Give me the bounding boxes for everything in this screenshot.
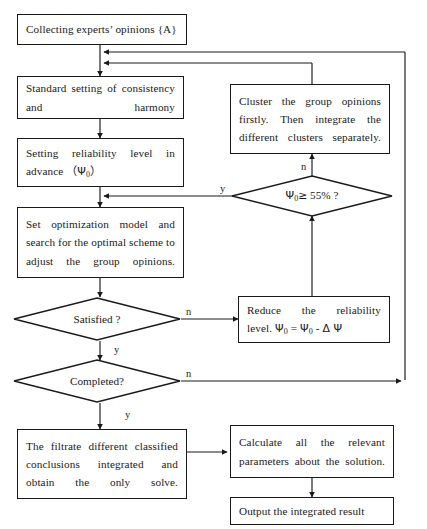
- node-completed-decision-label: Completed?: [70, 375, 124, 387]
- node-satisfied-decision[interactable]: Satisfied ?: [13, 297, 181, 341]
- node-calculate-parameters-label: Calculate all the relevant parameters ab…: [239, 433, 385, 469]
- node-set-optimization-model-label: Set optimization model and search for th…: [26, 215, 175, 269]
- edge-label-completed-yes: y: [125, 410, 130, 421]
- threshold-value: 55%: [310, 189, 331, 201]
- node-output-result[interactable]: Output the integrated result: [230, 497, 394, 525]
- node-cluster-opinions[interactable]: Cluster the group opinions firstly. Then…: [230, 84, 390, 154]
- node-filtrate-conclusions[interactable]: The filtrate different classified conclu…: [17, 429, 187, 499]
- edge-label-satisfied-yes: y: [114, 345, 119, 356]
- edge-label-threshold-yes: y: [220, 184, 225, 195]
- minus-sign: -: [313, 322, 323, 334]
- greater-equal-icon: ≥: [298, 189, 307, 202]
- reduce-line2-prefix: level.: [247, 322, 275, 334]
- psi-symbol-lhs: Ψ: [275, 322, 284, 335]
- equals-sign: =: [288, 322, 300, 334]
- delta-symbol: Δ: [322, 322, 330, 335]
- node-collecting-opinions-label: Collecting experts’ opinions {A}: [26, 20, 178, 38]
- setting-reliability-line1: Setting reliability level in: [26, 147, 175, 159]
- setting-reliability-line2-post: ）: [90, 165, 101, 177]
- node-completed-decision[interactable]: Completed?: [13, 359, 181, 403]
- psi-symbol-delta: Ψ: [330, 322, 342, 335]
- node-calculate-parameters[interactable]: Calculate all the relevant parameters ab…: [230, 425, 394, 478]
- node-setting-reliability[interactable]: Setting reliability level in advance （Ψ0…: [17, 138, 184, 187]
- node-output-result-label: Output the integrated result: [239, 502, 385, 520]
- node-cluster-opinions-label: Cluster the group opinions firstly. Then…: [239, 92, 381, 146]
- edge-label-satisfied-no: n: [186, 307, 191, 318]
- flowchart-canvas: Collecting experts’ opinions {A} Standar…: [0, 0, 427, 529]
- question-mark: ?: [333, 189, 338, 201]
- psi-symbol: Ψ: [77, 165, 86, 178]
- node-threshold-decision-label: Ψ0≥ 55% ?: [286, 189, 339, 203]
- node-satisfied-decision-label: Satisfied ?: [74, 313, 121, 325]
- node-threshold-decision[interactable]: Ψ0≥ 55% ?: [231, 175, 393, 217]
- node-setting-reliability-label: Setting reliability level in advance （Ψ0…: [26, 144, 175, 181]
- node-standard-setting[interactable]: Standard setting of consistency and harm…: [17, 76, 184, 119]
- node-reduce-reliability[interactable]: Reduce the reliability level. Ψ0 = Ψ0 - …: [238, 296, 390, 343]
- psi-symbol-threshold: Ψ: [286, 189, 295, 202]
- node-filtrate-conclusions-label: The filtrate different classified conclu…: [26, 437, 178, 491]
- node-standard-setting-label: Standard setting of consistency and harm…: [26, 79, 175, 115]
- node-collecting-opinions[interactable]: Collecting experts’ opinions {A}: [17, 14, 187, 45]
- edge-label-completed-no: n: [186, 369, 191, 380]
- edge-label-threshold-no: n: [301, 162, 306, 173]
- node-set-optimization-model[interactable]: Set optimization model and search for th…: [17, 207, 184, 278]
- setting-reliability-line2-pre: advance （: [26, 165, 77, 177]
- psi-symbol-rhs: Ψ: [300, 322, 309, 335]
- node-reduce-reliability-label: Reduce the reliability level. Ψ0 = Ψ0 - …: [247, 301, 381, 338]
- reduce-line1: Reduce the reliability: [247, 304, 381, 316]
